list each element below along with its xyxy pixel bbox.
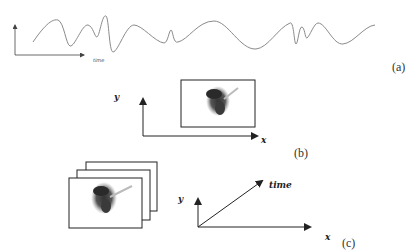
panel-a: time (a) — [15, 16, 405, 74]
frame-stack — [69, 162, 157, 228]
panel-b-y-label: y — [113, 92, 120, 102]
panel-c-y-label: y — [177, 194, 184, 204]
diagram-canvas: time (a) y x (b) — [0, 0, 420, 252]
panel-c: y time x (c) — [69, 162, 355, 250]
panel-c-x-label: x — [324, 232, 331, 242]
panel-a-time-label: time — [93, 57, 104, 63]
panel-b-caption: (b) — [294, 146, 308, 160]
panel-b: y x (b) — [113, 80, 308, 160]
panel-b-x-label: x — [260, 135, 267, 145]
panel-c-caption: (c) — [342, 236, 355, 250]
signal-waveform — [33, 16, 375, 52]
panel-a-caption: (a) — [392, 60, 405, 74]
panel-c-time-label: time — [269, 180, 292, 190]
panel-a-axes — [15, 25, 84, 55]
